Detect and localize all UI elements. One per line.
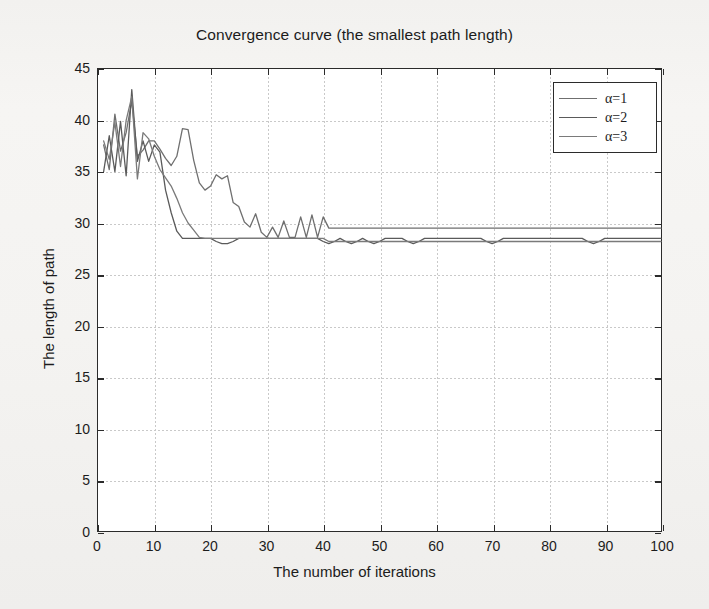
y-tick-label: 35 bbox=[58, 163, 90, 179]
x-tick-label: 50 bbox=[372, 538, 388, 554]
legend-item-1[interactable]: α=1 bbox=[559, 89, 651, 108]
legend-label: α=1 bbox=[605, 91, 627, 107]
figure-canvas: Convergence curve (the smallest path len… bbox=[0, 0, 709, 609]
chart-title: Convergence curve (the smallest path len… bbox=[0, 26, 709, 44]
legend-line-swatch bbox=[559, 136, 597, 137]
y-tick-label: 10 bbox=[58, 421, 90, 437]
y-axis-tick-mark bbox=[98, 533, 104, 534]
legend-line-swatch bbox=[559, 117, 597, 118]
x-tick-label: 30 bbox=[259, 538, 275, 554]
x-tick-label: 0 bbox=[93, 538, 101, 554]
x-tick-label: 100 bbox=[650, 538, 673, 554]
legend-label: α=3 bbox=[605, 129, 627, 145]
y-tick-label: 30 bbox=[58, 215, 90, 231]
y-axis-label: The length of path bbox=[40, 169, 57, 449]
x-tick-label: 70 bbox=[485, 538, 501, 554]
legend-box: α=1α=2α=3 bbox=[553, 82, 657, 153]
y-tick-label: 40 bbox=[58, 112, 90, 128]
x-axis-label: The number of iterations bbox=[0, 563, 709, 580]
x-tick-label: 60 bbox=[428, 538, 444, 554]
x-tick-label: 10 bbox=[146, 538, 162, 554]
legend-line-swatch bbox=[559, 98, 597, 99]
y-tick-label: 15 bbox=[58, 369, 90, 385]
x-tick-label: 80 bbox=[541, 538, 557, 554]
y-tick-label: 20 bbox=[58, 318, 90, 334]
legend-item-3[interactable]: α=3 bbox=[559, 127, 651, 146]
y-tick-label: 0 bbox=[58, 524, 90, 540]
y-tick-label: 25 bbox=[58, 266, 90, 282]
x-tick-label: 90 bbox=[598, 538, 614, 554]
y-tick-label: 45 bbox=[58, 60, 90, 76]
legend-item-2[interactable]: α=2 bbox=[559, 108, 651, 127]
legend-label: α=2 bbox=[605, 110, 627, 126]
x-axis-tick-mark bbox=[663, 525, 664, 531]
x-tick-label: 20 bbox=[202, 538, 218, 554]
x-tick-label: 40 bbox=[315, 538, 331, 554]
y-tick-label: 5 bbox=[58, 472, 90, 488]
y-axis-tick-mark bbox=[655, 533, 661, 534]
x-axis-tick-mark bbox=[663, 69, 664, 75]
